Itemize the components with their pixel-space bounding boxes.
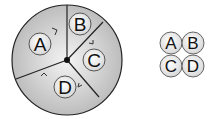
legend-tokens: A B C D [160, 32, 204, 77]
section-D: D [54, 76, 76, 98]
section-A: A [29, 33, 51, 55]
section-B: B [69, 13, 91, 35]
section-label-A: A [34, 34, 47, 55]
main-circle [12, 5, 122, 115]
svg-text:B: B [187, 34, 198, 53]
diagram-canvas: A B C D A B C D [0, 0, 213, 119]
svg-text:C: C [165, 57, 177, 76]
svg-text:D: D [187, 57, 199, 76]
legend-token-D: D [182, 55, 204, 77]
center-pivot [64, 57, 70, 63]
legend-token-A: A [160, 32, 182, 54]
section-label-C: C [87, 50, 101, 71]
legend-token-B: B [182, 32, 204, 54]
svg-text:A: A [165, 34, 177, 53]
section-label-D: D [58, 77, 72, 98]
legend-token-C: C [160, 55, 182, 77]
section-label-B: B [74, 14, 87, 35]
section-C: C [83, 49, 105, 71]
